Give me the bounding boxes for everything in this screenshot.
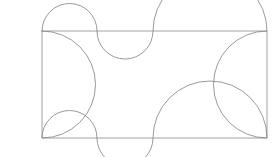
diagram-canvas xyxy=(0,0,280,157)
tile-outline-path xyxy=(42,0,267,157)
tessellation-tile-figure xyxy=(0,0,280,157)
